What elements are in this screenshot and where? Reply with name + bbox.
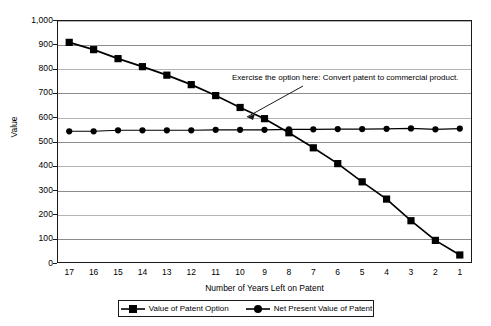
data-point-circle bbox=[359, 126, 365, 132]
x-tick-label: 8 bbox=[279, 268, 299, 277]
x-tick-label: 6 bbox=[328, 268, 348, 277]
x-tick-label: 16 bbox=[84, 268, 104, 277]
data-point-square bbox=[407, 217, 414, 224]
data-point-circle bbox=[261, 127, 267, 133]
legend-label: Value of Patent Option bbox=[149, 304, 229, 313]
data-point-square bbox=[310, 144, 317, 151]
x-tick-label: 12 bbox=[181, 268, 201, 277]
data-point-circle bbox=[213, 127, 219, 133]
data-point-square bbox=[139, 63, 146, 70]
annotation-text: Exercise the option here: Convert patent… bbox=[232, 73, 458, 83]
chart-figure: 1,0009008007006005004003002001000 Value … bbox=[0, 0, 491, 326]
legend-marker-circle-icon bbox=[245, 304, 271, 314]
data-point-square bbox=[383, 195, 390, 202]
data-point-circle bbox=[139, 127, 145, 133]
y-tick-label: 500 bbox=[39, 137, 53, 146]
x-tick-label: 2 bbox=[425, 268, 445, 277]
y-tick-label: 100 bbox=[39, 234, 53, 243]
x-tick-label: 1 bbox=[450, 268, 470, 277]
y-tick-label: 900 bbox=[39, 40, 53, 49]
legend-label: Net Present Value of Patent bbox=[274, 304, 373, 313]
x-tick-label: 5 bbox=[352, 268, 372, 277]
data-point-square bbox=[212, 92, 219, 99]
data-point-square bbox=[163, 72, 170, 79]
data-point-circle bbox=[164, 127, 170, 133]
data-point-circle bbox=[310, 126, 316, 132]
x-tick-label: 7 bbox=[303, 268, 323, 277]
y-tick-label: 600 bbox=[39, 113, 53, 122]
x-tick-label: 15 bbox=[108, 268, 128, 277]
data-point-circle bbox=[237, 127, 243, 133]
data-point-circle bbox=[335, 126, 341, 132]
data-series-layer bbox=[57, 20, 472, 263]
legend-item: Net Present Value of Patent bbox=[245, 304, 373, 314]
legend-item: Value of Patent Option bbox=[120, 304, 229, 314]
x-tick-label: 10 bbox=[230, 268, 250, 277]
data-point-square bbox=[66, 39, 73, 46]
data-point-circle bbox=[91, 128, 97, 134]
data-point-square bbox=[236, 104, 243, 111]
data-point-circle bbox=[457, 126, 463, 132]
data-point-circle bbox=[432, 126, 438, 132]
data-point-square bbox=[90, 46, 97, 53]
legend-marker-square-icon bbox=[120, 304, 146, 314]
x-axis-title: Number of Years Left on Patent bbox=[57, 283, 472, 293]
y-tick-label: 200 bbox=[39, 210, 53, 219]
x-tick-label: 3 bbox=[401, 268, 421, 277]
y-tick-label: 800 bbox=[39, 64, 53, 73]
y-axis-title: Value bbox=[9, 97, 19, 157]
data-point-square bbox=[359, 178, 366, 185]
data-point-circle bbox=[188, 127, 194, 133]
x-tick-label: 13 bbox=[157, 268, 177, 277]
legend: Value of Patent Option Net Present Value… bbox=[118, 300, 374, 317]
data-point-square bbox=[334, 160, 341, 167]
data-point-square bbox=[114, 55, 121, 62]
data-point-square bbox=[432, 237, 439, 244]
data-point-circle bbox=[408, 125, 414, 131]
data-point-square bbox=[456, 251, 463, 258]
y-tick-label: 700 bbox=[39, 88, 53, 97]
y-axis: 1,0009008007006005004003002001000 bbox=[0, 20, 53, 263]
data-point-circle bbox=[286, 126, 292, 132]
data-point-square bbox=[261, 115, 268, 122]
y-tick-label: 300 bbox=[39, 186, 53, 195]
x-tick-label: 17 bbox=[59, 268, 79, 277]
x-tick-label: 4 bbox=[377, 268, 397, 277]
y-tick-label: 400 bbox=[39, 161, 53, 170]
data-point-square bbox=[188, 81, 195, 88]
data-point-circle bbox=[115, 127, 121, 133]
x-axis: 1716151413121110987654321 bbox=[57, 263, 472, 281]
y-tick-label: 1,000 bbox=[31, 16, 53, 25]
data-point-circle bbox=[383, 126, 389, 132]
x-tick-label: 11 bbox=[206, 268, 226, 277]
x-tick-label: 9 bbox=[255, 268, 275, 277]
data-point-circle bbox=[66, 128, 72, 134]
x-tick-label: 14 bbox=[132, 268, 152, 277]
